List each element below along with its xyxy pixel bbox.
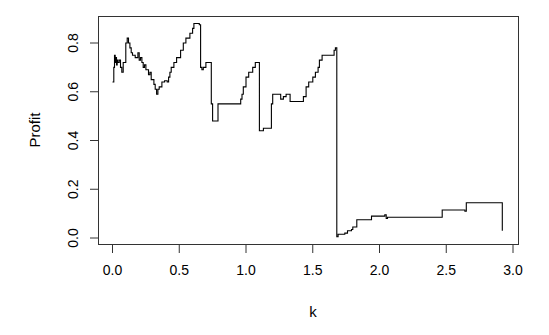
x-tick-label: 2.5 (437, 262, 457, 278)
x-tick-label: 2.0 (370, 262, 390, 278)
profit-series-line (113, 24, 503, 237)
profit-vs-k-chart: 0.00.51.01.52.02.53.0 0.00.20.40.60.8 k … (0, 0, 549, 335)
y-tick-label: 0.4 (65, 131, 81, 151)
x-tick-label: 1.5 (303, 262, 323, 278)
y-tick-label: 0.0 (65, 228, 81, 248)
x-tick-label: 3.0 (503, 262, 523, 278)
y-tick-label: 0.8 (65, 33, 81, 53)
y-axis: 0.00.20.40.60.8 (65, 33, 98, 248)
x-tick-label: 1.0 (236, 262, 256, 278)
y-axis-title: Profit (26, 112, 43, 148)
x-axis-title: k (309, 303, 317, 320)
y-tick-label: 0.2 (65, 179, 81, 199)
y-tick-label: 0.6 (65, 82, 81, 102)
x-tick-label: 0.5 (170, 262, 190, 278)
x-axis: 0.00.51.01.52.02.53.0 (103, 245, 523, 278)
x-tick-label: 0.0 (103, 262, 123, 278)
